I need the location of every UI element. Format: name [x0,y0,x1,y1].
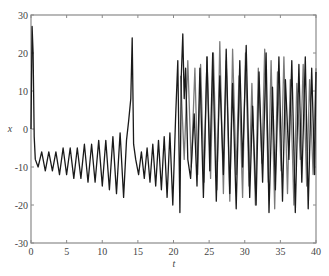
y-axis-label: x [7,123,13,134]
x-tick-label: 35 [275,246,285,257]
x-tick-label: 40 [311,246,321,257]
x-axis-label: t [173,258,176,269]
x-tick-label: 30 [240,246,250,257]
x-tick-label: 15 [133,246,143,257]
x-tick-label: 10 [97,246,107,257]
x-tick-label: 0 [29,246,34,257]
x-tick-label: 25 [204,246,214,257]
y-tick-label: 30 [18,10,28,21]
line-chart: 0510152025303540 3020100-10-20-30 t x [0,0,329,276]
x-tick-label: 5 [64,246,69,257]
y-tick-label: -30 [15,238,28,249]
x-tick-labels: 0510152025303540 [29,246,322,257]
y-tick-label: 0 [23,124,28,135]
y-tick-label: -20 [15,200,28,211]
y-tick-labels: 3020100-10-20-30 [15,10,28,249]
x-tick-label: 20 [169,246,179,257]
plot-area [31,15,316,243]
y-tick-label: 20 [18,48,28,59]
y-tick-label: -10 [15,162,28,173]
y-tick-label: 10 [18,86,28,97]
